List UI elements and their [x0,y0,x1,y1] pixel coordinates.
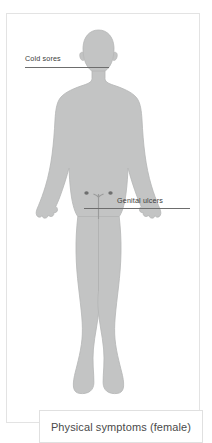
annotation-label-cold-sores: Cold sores [25,55,61,62]
annotation-label-genital-ulcers: Genital ulcers [117,197,163,204]
caption-text: Physical symptoms (female) [51,421,191,433]
female-body-silhouette [7,14,201,424]
lesion-mark-right [108,191,112,194]
figure-panel: Cold sores Genital ulcers Physical sympt… [6,13,200,423]
lesion-mark-left [84,191,88,194]
caption-box: Physical symptoms (female) [39,410,203,443]
leader-line-cold-sores [25,67,109,68]
body-silhouette-shape [36,30,161,394]
leader-line-genital-ulcers [84,208,190,209]
